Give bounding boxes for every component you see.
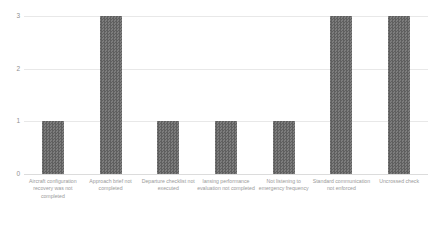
gridline-0 [24, 174, 428, 175]
bar-slot [24, 16, 82, 174]
category-label: Uncrossed check [370, 178, 428, 185]
bar-slot [82, 16, 140, 174]
plot-area [24, 16, 428, 174]
bar-slot [313, 16, 371, 174]
y-tick-label-0: 0 [2, 171, 20, 178]
bar[interactable] [157, 121, 179, 174]
y-tick-label-3: 3 [2, 13, 20, 20]
x-axis-category-labels: Aircraft configuration recovery was not … [24, 178, 428, 226]
bar-chart: 0123 Aircraft configuration recovery was… [0, 0, 434, 230]
bar-slot [197, 16, 255, 174]
y-tick-label-1: 1 [2, 118, 20, 125]
bar[interactable] [42, 121, 64, 174]
category-label: lansing performance evaluation not compl… [197, 178, 255, 193]
bar[interactable] [215, 121, 237, 174]
category-label: Standard communication not enforced [313, 178, 371, 193]
category-label: Departure checklist not executed [139, 178, 197, 193]
bar-slot [139, 16, 197, 174]
category-label: Not listening to emergency frequency [255, 178, 313, 193]
bar[interactable] [330, 16, 352, 174]
y-tick-label-2: 2 [2, 65, 20, 72]
bar-slot [370, 16, 428, 174]
bar[interactable] [273, 121, 295, 174]
bar[interactable] [388, 16, 410, 174]
bar-slot [255, 16, 313, 174]
category-label: Approach brief not completed [82, 178, 140, 193]
bar-series [24, 16, 428, 174]
category-label: Aircraft configuration recovery was not … [24, 178, 82, 200]
bar[interactable] [100, 16, 122, 174]
